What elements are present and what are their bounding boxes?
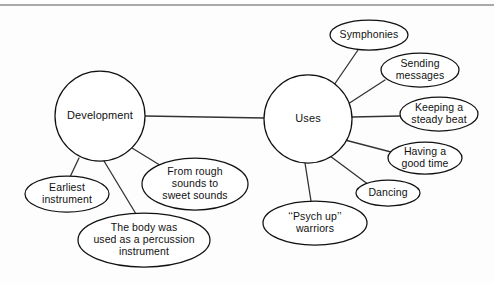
branch-node-sending-messages[interactable]: Sendingmessages <box>381 53 459 87</box>
concept-map-canvas: DevelopmentUsesEarliestinstrumentThe bod… <box>0 0 494 283</box>
connector-development-rough <box>132 148 163 167</box>
connector-development-earliest <box>70 158 79 177</box>
branch-node-dancing[interactable]: Dancing <box>356 180 420 206</box>
connector-development-body <box>104 161 136 214</box>
node-label: Having agood time <box>401 145 448 169</box>
node-label: Uses <box>295 112 321 124</box>
connector-uses-psych <box>305 163 311 201</box>
node-label: Development <box>67 109 133 121</box>
node-label: ‘‘Psych up’’warriors <box>288 210 341 234</box>
node-label: Sendingmessages <box>396 57 445 81</box>
branch-node-psych-up-warriors[interactable]: ‘‘Psych up’’warriors <box>263 201 367 245</box>
connector-uses-dancing <box>330 156 369 185</box>
branch-node-symphonies[interactable]: Symphonies <box>330 20 408 50</box>
branch-node-body-percussion[interactable]: The body wasused as a percussioninstrume… <box>78 213 210 267</box>
connector-trunk-development-uses <box>145 116 264 118</box>
connector-uses-sending <box>348 80 385 104</box>
connector-uses-symphonies <box>334 50 358 85</box>
node-label: Symphonies <box>340 28 399 40</box>
branch-node-keeping-steady-beat[interactable]: Keeping asteady beat <box>400 97 478 131</box>
node-label: Keeping asteady beat <box>411 101 466 125</box>
connector-uses-having <box>345 140 391 152</box>
connector-uses-keeping <box>352 116 400 117</box>
branch-node-rough-to-sweet[interactable]: From roughsounds tosweet sounds <box>142 158 248 210</box>
main-node-uses[interactable]: Uses <box>264 75 352 163</box>
main-node-development[interactable]: Development <box>55 71 145 161</box>
node-label: From roughsounds tosweet sounds <box>162 165 227 201</box>
node-label: Earliestinstrument <box>42 181 92 205</box>
branch-node-having-good-time[interactable]: Having agood time <box>388 142 462 174</box>
branch-node-earliest-instrument[interactable]: Earliestinstrument <box>25 176 109 212</box>
node-layer: DevelopmentUsesEarliestinstrumentThe bod… <box>25 20 478 267</box>
node-label: Dancing <box>368 186 407 198</box>
